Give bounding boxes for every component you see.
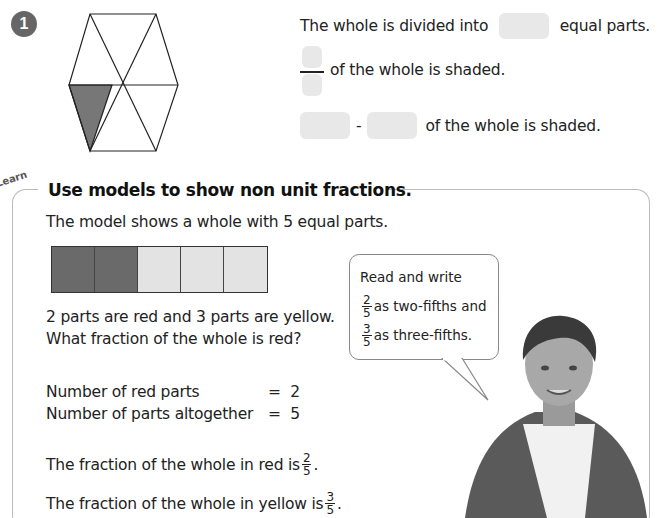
parts-answer-input[interactable] — [499, 13, 549, 39]
word-answer-input-1[interactable] — [300, 112, 350, 139]
hexagon-fraction-diagram — [64, 8, 204, 158]
boy-photo — [455, 312, 655, 518]
fraction-two-fifths: 25 — [302, 452, 311, 477]
equation-label: Number of parts altogether — [46, 403, 253, 425]
bar-part-red — [52, 247, 95, 292]
result-red: The fraction of the whole in red is 25 . — [46, 452, 318, 477]
word-answer-input-2[interactable] — [367, 112, 417, 139]
bar-part-yellow — [224, 247, 267, 292]
parts-question: The whole is divided into equal parts. — [300, 13, 650, 39]
question-line-2: What fraction of the whole is red? — [46, 330, 301, 348]
bar-part-yellow — [138, 247, 181, 292]
learn-heading: Use models to show non unit fractions. — [48, 180, 412, 200]
fraction-three-fifths: 35 — [325, 491, 334, 516]
equation-label: Number of red parts — [46, 381, 253, 403]
fraction-three-fifths: 35 — [362, 323, 372, 348]
question-line-1: 2 parts are red and 3 parts are yellow. — [46, 308, 335, 326]
equation-labels: Number of red parts Number of parts alto… — [46, 381, 253, 425]
fraction-two-fifths: 25 — [362, 294, 372, 319]
bar-part-red — [95, 247, 138, 292]
denominator-answer-input[interactable] — [302, 74, 322, 96]
numerator-answer-input[interactable] — [302, 46, 322, 68]
shaded-words-question: - of the whole is shaded. — [300, 112, 601, 139]
learn-tag: Learn — [0, 169, 28, 189]
bar-part-yellow — [181, 247, 224, 292]
equation-values: = 2 = 5 — [268, 381, 300, 425]
question-number-badge: 1 — [11, 11, 37, 37]
intro-text: The model shows a whole with 5 equal par… — [46, 213, 388, 231]
result-yellow: The fraction of the whole in yellow is 3… — [46, 491, 342, 516]
bar-model — [51, 246, 268, 293]
fraction-bar — [300, 71, 324, 73]
shaded-fraction-label: of the whole is shaded. — [330, 61, 505, 79]
